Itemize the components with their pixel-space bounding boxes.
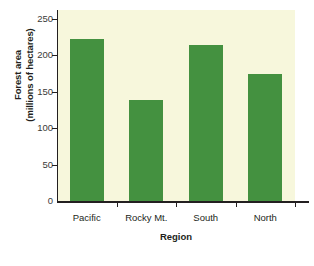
y-axis-tickmark — [52, 165, 57, 166]
y-axis-tick-label: 100 — [23, 123, 53, 133]
bar-south — [189, 45, 223, 201]
y-axis-ticks: 050100150200250 — [20, 0, 53, 266]
x-axis-title: Region — [57, 231, 295, 242]
bar-rocky-mt — [129, 100, 163, 201]
y-axis-tick-label: 250 — [23, 14, 53, 24]
bar-chart-figure: Forest area (millions of hectares) 05010… — [0, 0, 314, 266]
y-axis-tickmark — [52, 19, 57, 20]
x-axis-tick-label: North — [230, 212, 300, 223]
x-axis-tickmark — [176, 202, 177, 207]
y-axis-tick-label: 200 — [23, 50, 53, 60]
y-axis-tickmark — [52, 128, 57, 129]
x-axis-tickmark — [117, 202, 118, 207]
bar-pacific — [70, 39, 104, 201]
x-axis-line — [57, 201, 309, 203]
y-axis-tick-label: 150 — [23, 87, 53, 97]
bar-north — [248, 74, 282, 201]
y-axis-tickmark — [52, 92, 57, 93]
x-axis-tickmark — [295, 202, 296, 207]
x-axis-tickmark — [236, 202, 237, 207]
y-axis-tickmark — [52, 55, 57, 56]
y-axis-tick-label: 50 — [23, 160, 53, 170]
y-axis-tick-label: 0 — [23, 196, 53, 206]
